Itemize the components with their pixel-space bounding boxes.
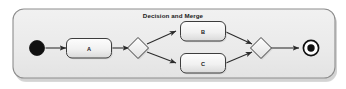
activity-b[interactable]: B [181,22,227,43]
activity-diagram: Decision and Merge A B [0,0,346,89]
diagram-title: Decision and Merge [143,12,204,19]
activity-c-label: C [201,61,205,67]
end-node[interactable] [303,40,318,55]
start-node[interactable] [30,41,45,56]
end-node-dot [307,44,314,51]
diagram-container [13,9,335,78]
activity-a[interactable]: A [67,39,113,60]
activity-c[interactable]: C [181,54,227,75]
activity-a-label: A [87,46,91,52]
activity-b-label: B [201,29,205,35]
diagram-canvas: Decision and Merge A B [0,0,346,89]
